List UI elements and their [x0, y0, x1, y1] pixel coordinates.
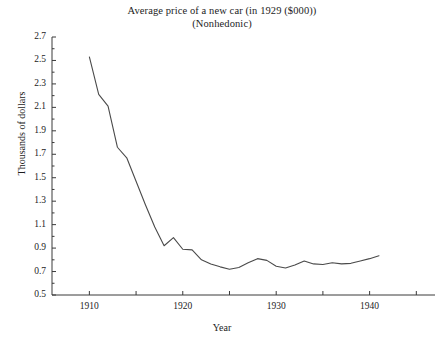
series-line: [89, 57, 379, 269]
chart-figure: Average price of a new car (in 1929 ($00…: [0, 0, 444, 349]
chart-plot-area: [0, 0, 444, 349]
chart-series-group: [89, 57, 379, 269]
